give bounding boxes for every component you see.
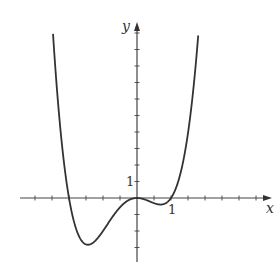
x-unit-label: 1	[168, 202, 176, 217]
y-axis-arrow-icon	[134, 22, 140, 31]
graph-figure: x y 1 1	[0, 0, 280, 267]
graph-canvas: x y 1 1	[0, 0, 280, 267]
function-curve	[53, 34, 198, 245]
y-unit-label: 1	[126, 174, 134, 189]
y-axis-label: y	[121, 18, 131, 34]
x-axis-label: x	[266, 200, 274, 216]
